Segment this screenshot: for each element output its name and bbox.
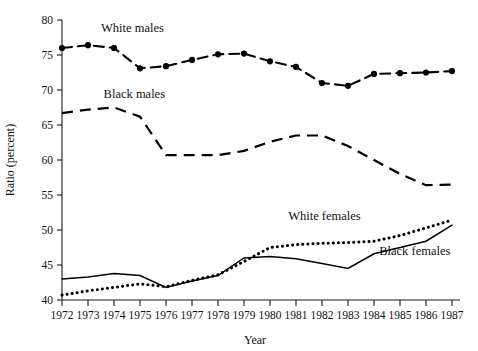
x-axis-tick-label: 1976 (155, 309, 178, 321)
series-marker-white-males (85, 42, 91, 48)
y-axis-tick-label: 65 (42, 119, 54, 131)
x-axis-tick-label: 1984 (363, 309, 386, 321)
series-marker-white-males (267, 58, 273, 64)
series-marker-white-males (215, 51, 221, 57)
x-axis-tick-label: 1981 (285, 309, 308, 321)
series-marker-white-males (319, 80, 325, 86)
x-axis-tick-label: 1982 (311, 309, 334, 321)
x-axis-tick-label: 1987 (441, 309, 464, 321)
x-axis-tick-label: 1973 (77, 309, 100, 321)
y-axis-tick-label: 55 (42, 189, 54, 201)
x-axis-tick-label: 1980 (259, 309, 282, 321)
y-axis-title: Ratio (percent) (3, 124, 17, 196)
series-line-white-males (62, 45, 452, 86)
x-axis-tick-label: 1979 (233, 309, 256, 321)
y-axis-tick-label: 40 (42, 294, 54, 306)
chart-figure: 4045505560657075801972197319741975197619… (0, 0, 478, 351)
x-axis-tick-label: 1972 (51, 309, 74, 321)
series-marker-white-males (163, 63, 169, 69)
series-marker-white-males (241, 51, 247, 57)
y-axis-tick-label: 60 (42, 154, 54, 166)
x-axis-tick-label: 1974 (103, 309, 126, 321)
x-axis-title: Year (244, 333, 266, 347)
series-marker-white-males (111, 45, 117, 51)
series-marker-white-males (293, 64, 299, 70)
line-chart: 4045505560657075801972197319741975197619… (0, 0, 478, 351)
y-axis-tick-label: 70 (42, 84, 54, 96)
series-marker-white-males (423, 69, 429, 75)
y-axis-tick-label: 45 (42, 259, 54, 271)
y-axis-tick-label: 50 (42, 224, 54, 236)
series-marker-white-males (397, 70, 403, 76)
series-marker-white-males (137, 65, 143, 71)
x-axis-tick-label: 1975 (129, 309, 152, 321)
y-axis-tick-label: 75 (42, 49, 54, 61)
series-marker-white-males (449, 68, 455, 74)
series-label-black-males: Black males (104, 87, 166, 101)
x-axis-tick-label: 1983 (337, 309, 360, 321)
series-line-black-males (62, 108, 452, 186)
y-axis-tick-label: 80 (42, 14, 54, 26)
series-marker-white-males (189, 57, 195, 63)
series-label-white-males: White males (101, 21, 164, 35)
series-label-white-females: White females (288, 209, 361, 223)
series-marker-white-males (345, 83, 351, 89)
series-marker-white-males (371, 71, 377, 77)
x-axis-tick-label: 1986 (415, 309, 438, 321)
x-axis-tick-label: 1977 (181, 309, 204, 321)
x-axis-tick-label: 1985 (389, 309, 412, 321)
series-marker-white-males (59, 45, 65, 51)
x-axis-tick-label: 1978 (207, 309, 230, 321)
series-label-black-females: Black females (379, 244, 450, 258)
